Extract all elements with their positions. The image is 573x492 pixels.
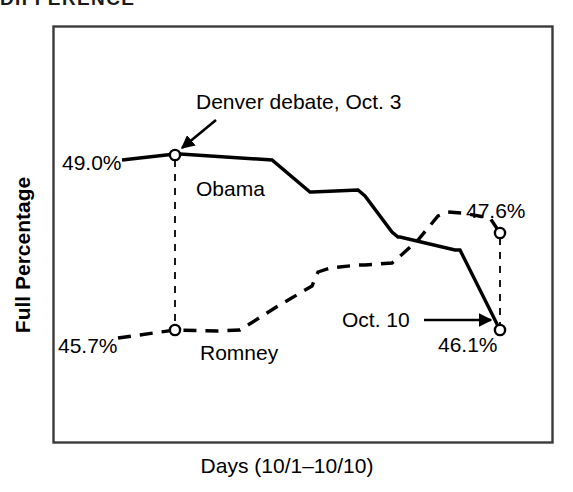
- marker-romney-oct10: [495, 228, 505, 238]
- marker-romney-oct3: [170, 325, 180, 335]
- chart-svg: Denver debate, Oct. 3 49.0% Obama 47.6% …: [0, 0, 573, 492]
- marker-obama-oct3: [170, 150, 180, 160]
- x-axis-label: Days (10/1–10/10): [201, 454, 374, 477]
- oct10-annotation-label: Oct. 10: [342, 308, 410, 331]
- chart-figure: DIFFERENCE Denver debate, Oct. 3 49.0% O: [0, 0, 573, 492]
- obama-series-label: Obama: [196, 177, 265, 200]
- romney-end-value-label: 47.6%: [466, 199, 526, 222]
- romney-series-label: Romney: [200, 341, 279, 364]
- debate-annotation-label: Denver debate, Oct. 3: [196, 90, 401, 113]
- obama-end-value-label: 46.1%: [438, 333, 498, 356]
- y-axis-label: Full Percentage: [11, 177, 34, 333]
- plot-frame: [54, 27, 553, 443]
- obama-start-value-label: 49.0%: [62, 151, 122, 174]
- romney-start-value-label: 45.7%: [58, 334, 118, 357]
